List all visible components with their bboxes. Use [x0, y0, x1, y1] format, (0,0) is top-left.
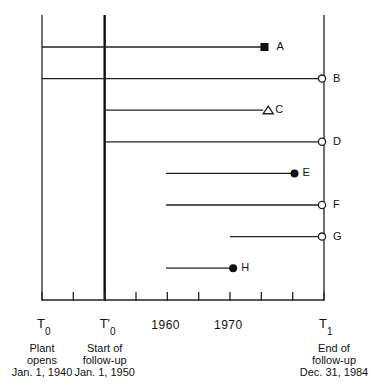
subject-label-f: F: [333, 198, 340, 210]
subject-label-c: C: [275, 103, 283, 115]
year-label-1970: 1970: [214, 318, 243, 332]
subject-label-h: H: [241, 261, 249, 273]
open-circle-icon: [318, 138, 325, 145]
timeline-diagram: [0, 0, 371, 388]
open-circle-icon: [318, 201, 325, 208]
open-circle-icon: [318, 75, 325, 82]
open-circle-icon: [318, 233, 325, 240]
marker-t1: T1: [319, 316, 333, 334]
filled-circle-icon: [291, 169, 299, 177]
filled-square-icon: [260, 43, 268, 51]
year-label-1960: 1960: [151, 318, 180, 332]
marker-t0prime: T'0: [100, 316, 116, 334]
filled-circle-icon: [229, 264, 237, 272]
marker-caption-t1: End offollow-upDec. 31, 1984: [294, 342, 371, 378]
subject-label-a: A: [276, 40, 283, 52]
subject-label-d: D: [333, 135, 341, 147]
marker-caption-t0prime: Start offollow-upJan. 1, 1950: [65, 342, 145, 378]
subject-label-e: E: [303, 166, 310, 178]
subject-label-g: G: [333, 230, 342, 242]
subject-label-b: B: [333, 72, 340, 84]
marker-t0: T0: [37, 316, 51, 334]
open-triangle-icon: [263, 106, 273, 114]
